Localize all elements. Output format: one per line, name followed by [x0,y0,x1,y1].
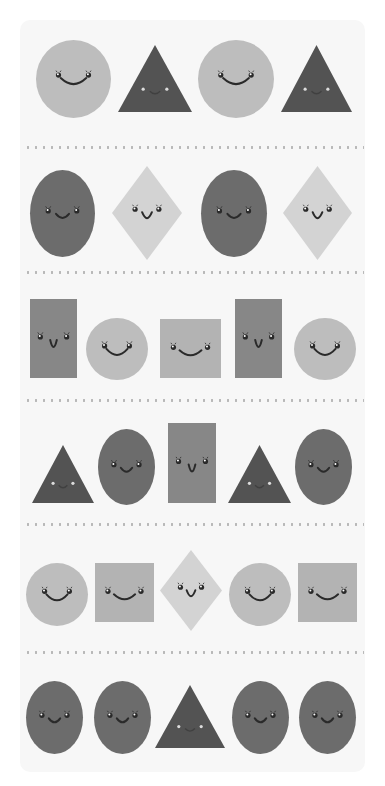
triangle-smiley-icon [32,445,94,503]
square-smiley-icon [160,319,221,378]
circle-smiley-icon [294,318,356,380]
ellipse-smiley-icon [98,429,155,505]
rectangle-smiley-icon [168,423,216,503]
dotted-divider [24,271,364,274]
ellipse-smiley-icon [26,681,83,754]
square-smiley-icon [298,563,357,622]
triangle-smiley-icon [228,445,291,503]
circle-smiley-icon [86,318,148,380]
circle-smiley-icon [36,40,111,118]
triangle-smiley-icon [118,45,192,112]
circle-smiley-icon [198,40,274,118]
rectangle-smiley-icon [30,299,77,378]
ellipse-smiley-icon [295,429,352,505]
rectangle-smiley-icon [235,299,282,378]
ellipse-smiley-icon [201,170,267,257]
diamond-smiley-icon [160,550,222,631]
dotted-divider [24,146,364,149]
dotted-divider [24,523,364,526]
diamond-smiley-icon [283,166,352,260]
ellipse-smiley-icon [30,170,95,257]
circle-smiley-icon [26,563,88,626]
dotted-divider [24,399,364,402]
square-smiley-icon [95,563,154,622]
diamond-smiley-icon [112,166,182,260]
dotted-divider [24,651,364,654]
triangle-smiley-icon [281,45,352,112]
circle-smiley-icon [229,563,291,626]
worksheet-card [20,20,365,772]
ellipse-smiley-icon [94,681,151,754]
triangle-smiley-icon [155,685,225,748]
ellipse-smiley-icon [232,681,289,754]
ellipse-smiley-icon [299,681,356,754]
